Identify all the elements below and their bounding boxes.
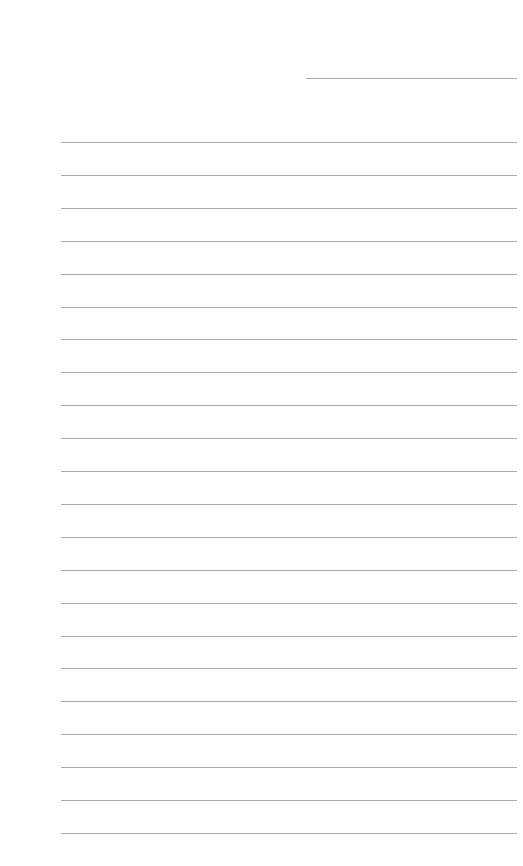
ruled-line [61,767,517,768]
ruled-line [61,636,517,637]
ruled-line [61,142,517,143]
ruled-line [61,800,517,801]
ruled-line [61,833,517,834]
ruled-line [61,701,517,702]
ruled-line [61,208,517,209]
name-date-line [306,78,517,79]
ruled-line [61,537,517,538]
ruled-line [61,175,517,176]
ruled-line [61,372,517,373]
lined-paper-page [0,0,523,866]
ruled-line [61,438,517,439]
ruled-line [61,603,517,604]
ruled-line [61,734,517,735]
ruled-line [61,570,517,571]
ruled-line [61,504,517,505]
ruled-line [61,307,517,308]
ruled-line [61,668,517,669]
ruled-line [61,241,517,242]
ruled-line [61,405,517,406]
ruled-line [61,274,517,275]
ruled-line [61,339,517,340]
ruled-line [61,471,517,472]
